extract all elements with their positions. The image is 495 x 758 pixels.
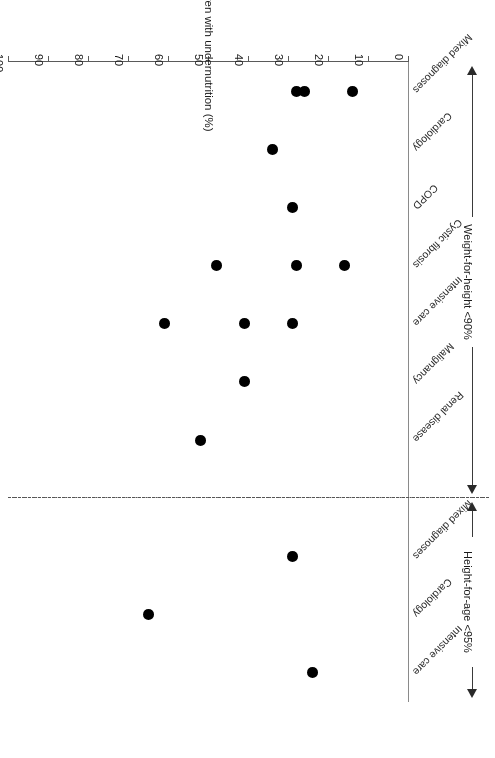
- value-axis-tick: [128, 56, 129, 62]
- value-axis-tick-label: 0: [393, 54, 405, 60]
- value-axis-tick: [328, 56, 329, 62]
- value-axis-tick: [48, 56, 49, 62]
- value-axis-tick-label: 10: [353, 54, 365, 66]
- bracket-arrow-up-icon: [468, 485, 478, 494]
- value-axis-tick: [88, 56, 89, 62]
- value-axis-tick-label: 40: [233, 54, 245, 66]
- value-axis-tick-label: 70: [113, 54, 125, 66]
- value-axis-tick-label: 20: [313, 54, 325, 66]
- plot-area: [9, 62, 409, 702]
- value-axis-tick: [248, 56, 249, 62]
- category-label: Mixed diagnoses: [411, 31, 476, 96]
- category-label: COPD: [411, 148, 476, 213]
- value-axis-tick: [408, 56, 409, 62]
- bracket-label-height-for-age: Height-for-age <95%: [462, 537, 474, 667]
- value-axis-tick: [368, 56, 369, 62]
- value-axis-tick-label: 100: [0, 54, 5, 72]
- figure-caption: Fig. 2.3. Proportion of paediatric patie…: [479, 752, 493, 758]
- value-axis-tick-label: 90: [33, 54, 45, 66]
- value-axis-tick-label: 30: [273, 54, 285, 66]
- bracket-arrow-down-icon: [468, 66, 478, 75]
- value-axis-title: Proportion of children with undernutriti…: [203, 0, 215, 124]
- figure-rotator: 0102030405060708090100 Mixed diagnosesCa…: [0, 0, 495, 758]
- category-label: Renal disease: [411, 380, 476, 445]
- category-label: Cardiology: [411, 89, 476, 154]
- bracket-arrow-up-icon: [468, 689, 478, 698]
- value-axis-tick-label: 80: [73, 54, 85, 66]
- value-axis-tick-label: 60: [153, 54, 165, 66]
- panel-separator: [8, 497, 489, 498]
- value-axis-tick: [168, 56, 169, 62]
- bracket-arrow-down-icon: [468, 502, 478, 511]
- value-axis-tick: [288, 56, 289, 62]
- value-axis-tick: [8, 56, 9, 62]
- bracket-label-weight-for-height: Weight-for-height <90%: [462, 217, 474, 347]
- category-axis-line: [408, 61, 409, 702]
